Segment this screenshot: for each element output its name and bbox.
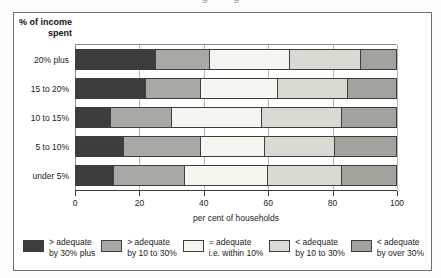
x-axis-label: per cent of households [75,213,397,223]
stacked-bar [75,107,397,128]
legend-swatch [183,240,204,252]
stacked-bar [75,136,397,157]
bar-segment [76,108,111,127]
legend-label: > adequateby 10 to 30% [127,237,177,258]
bar-rows: 20% plus15 to 20%10 to 15%5 to 10%under … [75,45,397,190]
tick-label: 60 [263,198,272,208]
legend-label: > adequateby 30% plus [49,237,95,258]
legend-item: < adequateby 10 to 30% [269,237,345,258]
bar-segment [76,137,124,156]
legend-label: < adequateby over 30% [377,237,424,258]
legend-label-line1: < adequate [377,237,424,248]
bar-segment [348,79,396,98]
bar-segment [76,79,146,98]
tick-mark [204,191,205,196]
bar-segment [265,137,335,156]
category-label: 20% plus [9,55,69,65]
tick-mark [139,191,140,196]
bar-row: 10 to 15% [75,103,397,132]
category-label: 15 to 20% [9,84,69,94]
y-axis-title-line2: spent [14,28,72,39]
legend-swatch [101,240,122,252]
stacked-bar [75,78,397,99]
legend-label-line1: = adequate [209,237,264,248]
bar-segment [201,79,278,98]
category-label: under 5% [9,171,69,181]
tick-label: 80 [328,198,337,208]
bar-segment [278,79,348,98]
bar-segment [76,166,114,185]
bar-row: 15 to 20% [75,74,397,103]
legend-label-line1: < adequate [295,237,345,248]
y-axis-title-line1: % of income [14,17,72,28]
legend-label-line1: > adequate [127,237,177,248]
legend-label-line2: by 10 to 30% [127,248,177,259]
legend-item: = adequatei.e. within 10% [183,237,264,258]
category-label: 10 to 15% [9,113,69,123]
legend-item: < adequateby over 30% [351,237,424,258]
stacked-bar [75,165,397,186]
tick-label: 0 [73,198,78,208]
legend: > adequateby 30% plus> adequateby 10 to … [23,237,424,258]
tick-label: 40 [199,198,208,208]
bar-segment [124,137,201,156]
bar-row: under 5% [75,161,397,190]
bar-segment [268,166,342,185]
legend-label: < adequateby 10 to 30% [295,237,345,258]
bar-segment [114,166,184,185]
plot-area: 20% plus15 to 20%10 to 15%5 to 10%under … [75,44,397,190]
category-label: 5 to 10% [9,142,69,152]
legend-label: = adequatei.e. within 10% [209,237,264,258]
bar-segment [342,108,396,127]
bar-segment [172,108,262,127]
bar-segment [361,50,396,69]
bar-row: 5 to 10% [75,132,397,161]
bar-segment [76,50,156,69]
y-axis-title: % of income spent [14,17,72,39]
legend-label-line1: > adequate [49,237,95,248]
x-axis-line [75,190,397,191]
legend-label-line2: by over 30% [377,248,424,259]
bar-segment [185,166,268,185]
bar-segment [146,79,200,98]
legend-item: > adequateby 30% plus [23,237,95,258]
stacked-bar [75,49,397,70]
bar-segment [201,137,265,156]
tick-mark [333,191,334,196]
cropped-text-fragment: g g [196,0,266,5]
bar-row: 20% plus [75,45,397,74]
legend-label-line2: by 10 to 30% [295,248,345,259]
bar-segment [342,166,396,185]
tick-mark [268,191,269,196]
bar-segment [262,108,342,127]
legend-item: > adequateby 10 to 30% [101,237,177,258]
gridline [397,45,398,190]
legend-label-line2: i.e. within 10% [209,248,264,259]
bar-segment [156,50,210,69]
tick-label: 100 [390,198,404,208]
bar-segment [210,50,290,69]
tick-mark [397,191,398,196]
legend-swatch [351,240,372,252]
bar-segment [335,137,396,156]
legend-swatch [269,240,290,252]
chart-figure: % of income spent 20% plus15 to 20%10 to… [13,12,432,271]
legend-label-line2: by 30% plus [49,248,95,259]
tick-label: 20 [135,198,144,208]
bar-segment [290,50,360,69]
legend-swatch [23,240,44,252]
bar-segment [111,108,172,127]
tick-mark [75,191,76,196]
